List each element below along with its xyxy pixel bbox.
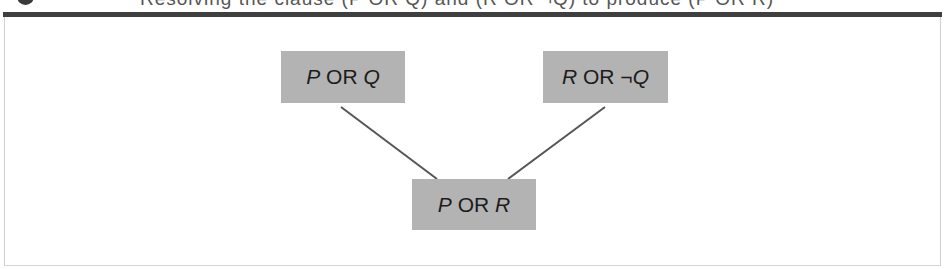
variable-p: P <box>306 65 320 88</box>
operator-or: OR <box>577 65 620 88</box>
operator-or: OR <box>320 65 363 88</box>
clause-node-r-or-not-q: R OR ¬Q <box>543 51 668 103</box>
edge-premise1-to-resolvent <box>341 107 437 179</box>
edge-premise2-to-resolvent <box>508 107 605 179</box>
variable-r: R <box>495 193 510 216</box>
variable-q: Q <box>363 65 379 88</box>
variable-p: P <box>438 193 452 216</box>
negation-symbol: ¬ <box>620 65 632 88</box>
operator-or: OR <box>452 193 495 216</box>
clause-node-p-or-r: P OR R <box>412 179 536 230</box>
variable-q: Q <box>633 65 649 88</box>
variable-r: R <box>562 65 577 88</box>
clause-node-p-or-q: P OR Q <box>281 51 405 103</box>
